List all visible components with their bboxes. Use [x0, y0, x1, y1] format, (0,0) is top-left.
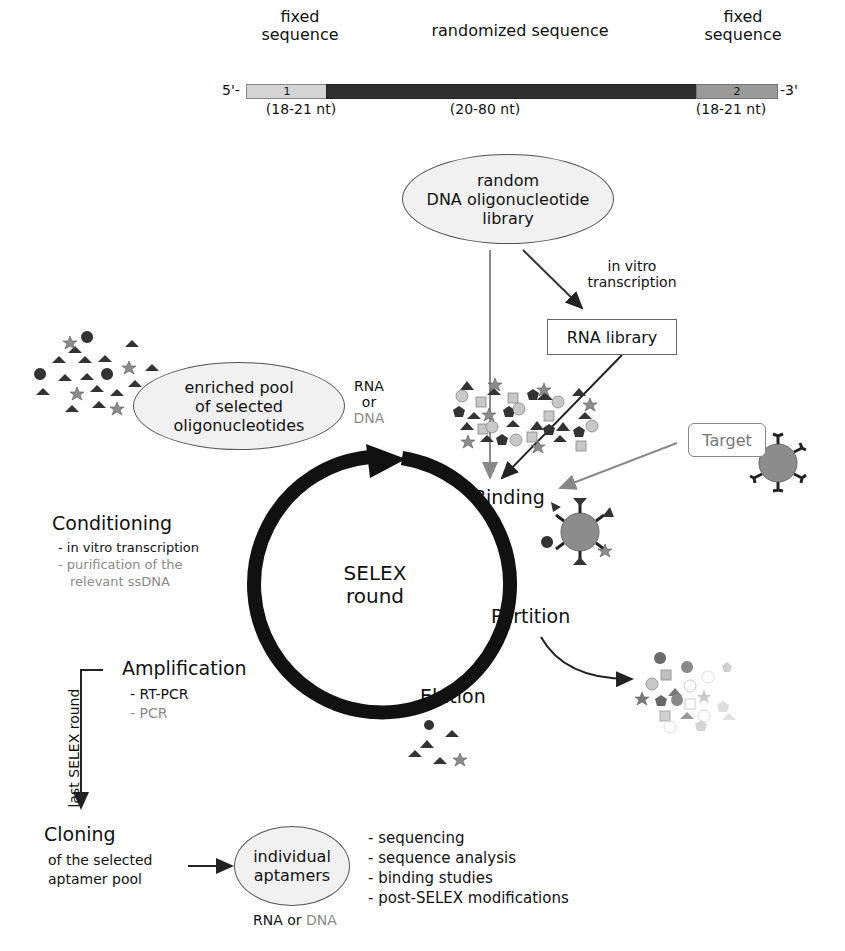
pool-line: of selected	[195, 397, 283, 416]
conditioning-item: - purification of the	[58, 556, 199, 573]
enriched-pool-node: enriched pool of selected oligonucleotid…	[133, 362, 345, 450]
amplification-item: - PCR	[130, 704, 188, 723]
amplification-item: - RT-PCR	[130, 685, 188, 704]
dna-text: DNA	[306, 912, 337, 928]
downstream-list: - sequencing - sequence analysis - bindi…	[368, 828, 569, 908]
library-line: library	[482, 209, 533, 228]
label-line: transcription	[572, 274, 692, 290]
amplification-list: - RT-PCR - PCR	[130, 685, 188, 723]
diagram-graphics	[0, 0, 845, 951]
last-round-arrow	[81, 670, 103, 808]
pool-line: oligonucleotides	[174, 416, 305, 435]
label-line: in vitro	[572, 258, 692, 274]
rna-to-binding-arrow	[502, 355, 622, 478]
downstream-item: - sequence analysis	[368, 848, 569, 868]
elution-shapes	[408, 720, 467, 766]
center-line: SELEX	[325, 562, 425, 585]
rna-text: RNA	[346, 378, 392, 394]
individual-aptamers-node: individual aptamers	[234, 826, 350, 906]
partition-discarded-shapes	[635, 652, 736, 733]
downstream-item: - sequencing	[368, 828, 569, 848]
rna-or-text: RNA or	[253, 912, 302, 928]
pool-line: enriched pool	[184, 378, 293, 397]
cloning-description: of the selected aptamer pool	[48, 851, 152, 889]
downstream-item: - binding studies	[368, 868, 569, 888]
selex-round-center: SELEX round	[325, 562, 425, 608]
binding-label: Binding	[473, 487, 545, 509]
selex-cycle-arrowhead	[366, 444, 406, 478]
conditioning-label: Conditioning	[52, 513, 172, 535]
amplification-label: Amplification	[122, 658, 247, 680]
dna-text: DNA	[346, 410, 392, 426]
random-library-shapes	[453, 378, 598, 453]
rna-library-box: RNA library	[547, 319, 677, 355]
downstream-item: - post-SELEX modifications	[368, 888, 569, 908]
elution-label: Elution	[420, 686, 486, 708]
aptamer-type-label: RNA or DNA	[240, 912, 350, 928]
library-line: random	[477, 171, 539, 190]
bound-target-complex	[541, 498, 614, 565]
target-label-box: Target	[688, 423, 766, 457]
rna-or-dna-label: RNA or DNA	[346, 378, 392, 426]
cloning-line: of the selected	[48, 851, 152, 870]
partition-arrow	[541, 637, 632, 679]
center-line: round	[325, 585, 425, 608]
aptamer-line: aptamers	[254, 866, 330, 885]
conditioning-item: relevant ssDNA	[58, 573, 199, 590]
random-dna-library-node: random DNA oligonucleotide library	[402, 154, 614, 244]
conditioning-item: - in vitro transcription	[58, 539, 199, 556]
cloning-label: Cloning	[44, 824, 116, 846]
last-selex-round-label: last SELEX round	[66, 688, 82, 808]
partition-label: Partition	[491, 606, 570, 628]
conditioning-list: - in vitro transcription - purification …	[58, 539, 199, 590]
cloning-line: aptamer pool	[48, 870, 152, 889]
library-line: DNA oligonucleotide	[427, 190, 590, 209]
in-vitro-transcription-label: in vitro transcription	[572, 258, 692, 290]
or-text: or	[346, 394, 392, 410]
aptamer-line: individual	[253, 847, 331, 866]
